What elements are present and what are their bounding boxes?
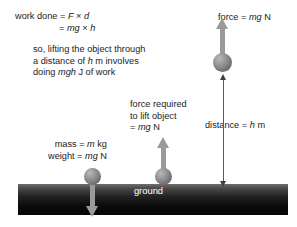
explanation-line3-post: J of work xyxy=(76,67,115,77)
physics-diagram-canvas: ground work done = F × d = mg × h so, li… xyxy=(0,0,297,227)
distance-post: m xyxy=(255,120,265,130)
mass-pre: mass = xyxy=(55,139,87,149)
lift-force-arrow-head-icon xyxy=(157,137,169,148)
variable-mg-force-req: mg xyxy=(138,122,151,132)
work-done-equation-line1: work done = F × d xyxy=(15,11,89,23)
distance-pre: distance = xyxy=(205,120,250,130)
weight-arrow-head-icon xyxy=(86,206,98,217)
force-arrow-right-head-icon xyxy=(216,18,228,29)
work-done-label: work done = xyxy=(15,11,68,21)
explanation-text: so, lifting the object through a distanc… xyxy=(33,44,145,79)
weight-pre: weight = xyxy=(48,151,85,161)
work-done-equation-line2: = mg × h xyxy=(59,23,95,35)
distance-label: distance = h m xyxy=(205,120,265,132)
distance-arrow-down-icon xyxy=(220,181,226,187)
variable-mg: mg xyxy=(67,23,80,33)
variable-mg-force-top: mg xyxy=(249,12,262,22)
force-required-line1: force required xyxy=(130,99,187,109)
distance-measure-line xyxy=(223,79,224,183)
object-sphere-raised xyxy=(213,53,232,72)
distance-arrow-up-icon xyxy=(220,74,226,80)
mass-post: kg xyxy=(95,139,107,149)
force-required-line2: to lift object xyxy=(130,111,176,121)
ground-label: ground xyxy=(0,185,297,196)
weight-post: N xyxy=(98,151,107,161)
force-required-line3-post: N xyxy=(151,122,160,132)
object-sphere-resting xyxy=(84,168,101,185)
object-sphere-lifting xyxy=(155,168,172,185)
explanation-line2-pre: a distance of xyxy=(33,56,88,66)
explanation-line2-post: m involves xyxy=(93,56,139,66)
variable-distance: d xyxy=(84,11,89,21)
variable-mg-weight: mg xyxy=(85,151,98,161)
multiply-operator-2: × xyxy=(80,23,90,33)
force-required-label: force required to lift object = mg N xyxy=(130,99,187,134)
variable-mgh: mgh xyxy=(58,67,76,77)
force-required-line3-pre: = xyxy=(130,122,138,132)
explanation-line3-pre: doing xyxy=(33,67,58,77)
multiply-operator: × xyxy=(74,11,84,21)
explanation-line1: so, lifting the object through xyxy=(33,44,145,54)
equals-sign: = xyxy=(59,23,67,33)
force-top-post: N xyxy=(262,12,271,22)
variable-m-mass: m xyxy=(87,139,95,149)
variable-h: h xyxy=(90,23,95,33)
mass-weight-label: mass = m kg weight = mg N xyxy=(48,139,107,162)
